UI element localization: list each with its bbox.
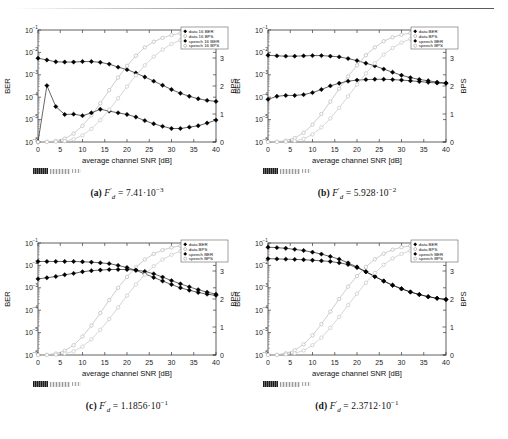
data-point-marker [364,72,367,75]
caption-a: (a) F′d = 7.41·10−3 [0,186,254,201]
data-point-marker [36,353,39,356]
data-point-marker [125,64,128,67]
caption-eq-d: = [343,401,348,411]
x-tick-label: 0 [36,146,40,153]
y-tick-exponent: −4 [33,305,39,310]
y-tick-exponent: −3 [263,283,269,288]
y-tick-exponent: −5 [263,327,269,332]
caption-sub-a: d [112,193,116,201]
watermark-logo-icon [33,168,48,174]
data-point-marker [302,343,305,346]
data-point-marker [266,140,269,143]
caption-sub-b: d [340,193,344,201]
x-tick-label: 0 [266,359,270,366]
data-point-marker [99,328,102,331]
y-right-tick-label: 3 [220,268,224,275]
x-tick-label: 10 [79,359,87,366]
chart-svg: 10−110−210−310−410−510−60123405101520253… [230,14,484,186]
y-right-tick-label: 0 [220,139,224,146]
data-point-marker [63,139,66,142]
data-point-marker [373,258,376,261]
legend-marker [414,35,417,38]
x-tick-label: 25 [375,359,383,366]
chart-legend: data 16 BERdata 16 BPSspeech 16 BERspeec… [181,27,228,49]
y-tick-exponent: −3 [263,70,269,75]
publisher-watermark [33,381,81,387]
y-right-tick-label: 2 [450,296,454,303]
legend-marker [184,257,187,260]
x-tick-label: 40 [212,359,220,366]
watermark-text [50,382,70,387]
data-point-marker [108,298,111,301]
y-right-tick-label: 1 [220,324,224,331]
y-right-tick-label: 1 [450,111,454,118]
caption-mantissa-b: 5.928 [354,188,376,198]
y-tick-exponent: −2 [33,47,39,52]
data-point-marker [161,48,164,51]
x-tick-label: 10 [309,359,317,366]
data-point-marker [400,252,403,255]
data-point-marker [72,344,75,347]
x-tick-label: 15 [101,146,109,153]
legend-label: speech 16 BPS [189,43,219,48]
data-point-marker [116,76,119,79]
y-axis-title: BER [233,291,242,307]
caption-base-b: 10 [379,188,389,198]
legend-label: speech BPS [189,256,213,261]
plot-c: 10−110−210−310−410−510−60123405101520253… [0,227,254,399]
watermark-suffix [302,382,311,386]
y-tick-exponent: −5 [33,327,39,332]
data-point-marker [311,334,314,337]
caption-eq-a: = [118,188,123,198]
caption-exp-a: −3 [156,186,164,194]
data-point-marker [152,40,155,43]
data-point-marker [81,124,84,127]
y-right-tick-label: 3 [220,55,224,62]
y-tick-exponent: −5 [263,114,269,119]
data-point-marker [302,131,305,134]
y-right-tick-label: 0 [450,139,454,146]
y-right-tick-label: 0 [220,352,224,359]
page-header-rule [14,8,494,9]
publisher-watermark [33,168,81,174]
watermark-logo-icon [33,381,48,387]
publisher-watermark [263,168,311,174]
data-point-marker [355,83,358,86]
x-tick-label: 30 [168,359,176,366]
data-point-marker [275,140,278,143]
data-point-marker [134,54,137,57]
watermark-text [280,169,300,174]
x-tick-label: 15 [101,359,109,366]
data-point-marker [81,134,84,137]
data-point-marker [311,344,314,347]
data-point-marker [81,345,84,348]
data-point-marker [346,75,349,78]
data-point-marker [90,127,93,130]
caption-sub-c: d [107,406,111,414]
data-point-marker [400,33,403,36]
x-tick-label: 20 [353,359,361,366]
plot-a: 10−110−210−310−410−510−60123405101520253… [0,14,254,186]
x-tick-label: 20 [123,146,131,153]
x-tick-label: 5 [58,359,62,366]
data-point-marker [134,283,137,286]
watermark-logo-icon [263,168,278,174]
x-tick-label: 30 [168,146,176,153]
x-tick-label: 5 [288,359,292,366]
y-right-tick-label: 2 [450,83,454,90]
data-point-marker [311,133,314,136]
data-point-marker [275,353,278,356]
caption-eq-b: = [346,188,351,198]
x-tick-label: 5 [58,146,62,153]
caption-label-c: (c) [86,401,97,411]
x-tick-label: 0 [36,359,40,366]
data-point-marker [161,248,164,251]
data-point-marker [391,248,394,251]
data-point-marker [284,353,287,356]
data-point-marker [382,53,385,56]
data-point-marker [116,97,119,100]
y-tick-exponent: −2 [263,260,269,265]
y-right-tick-label: 1 [220,111,224,118]
chart-svg: 10−110−210−310−410−510−60123405101520253… [0,14,254,186]
y-tick-exponent: −2 [263,47,269,52]
